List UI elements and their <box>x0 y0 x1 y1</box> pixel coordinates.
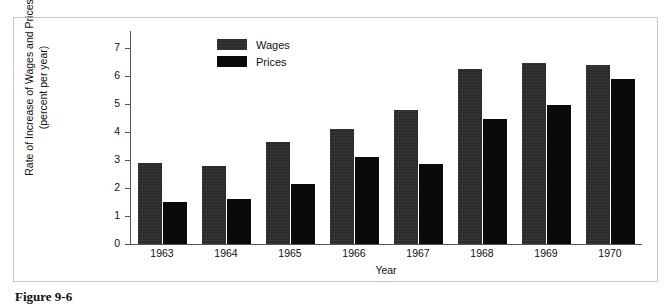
bar-prices-1969 <box>547 105 571 244</box>
legend-item: Prices <box>217 53 290 70</box>
legend-item: Wages <box>217 36 290 53</box>
bar-prices-1966 <box>355 157 379 244</box>
bar-group: 1968 <box>458 57 507 244</box>
x-axis-tick-label: 1964 <box>202 247 251 259</box>
y-axis-tick-label: 5 <box>114 97 120 110</box>
legend-swatch-prices <box>217 56 247 67</box>
figure-caption: Figure 9-6 <box>15 289 72 304</box>
y-axis-tick-label: 3 <box>114 153 120 166</box>
y-axis-tick-label: 1 <box>114 209 120 222</box>
x-axis-tick-label: 1968 <box>458 247 507 259</box>
bar-group: 1969 <box>522 57 571 244</box>
y-axis-title: Rate of Increase of Wages and Prices (pe… <box>23 0 50 188</box>
x-axis-tick-label: 1966 <box>330 247 379 259</box>
legend-label-prices: Prices <box>256 56 287 68</box>
bar-wages-1966 <box>330 129 354 244</box>
bar-group: 1970 <box>586 57 635 244</box>
y-axis-tick-label: 0 <box>114 237 120 250</box>
y-axis-tick-label: 2 <box>114 181 120 194</box>
x-axis-tick-label: 1965 <box>266 247 315 259</box>
figure-frame: 01234567 Rate of Increase of Wages and P… <box>13 17 658 282</box>
legend-swatch-wages <box>217 39 247 50</box>
figure-root: 01234567 Rate of Increase of Wages and P… <box>0 0 672 304</box>
x-axis-tick-label: 1967 <box>394 247 443 259</box>
bar-group: 1966 <box>330 57 379 244</box>
y-axis-tick-label: 6 <box>114 69 120 82</box>
legend-label-wages: Wages <box>256 39 290 51</box>
bar-wages-1964 <box>202 166 226 244</box>
chart-legend: WagesPrices <box>217 36 290 70</box>
y-axis-tick-label: 4 <box>114 125 120 138</box>
bar-wages-1969 <box>522 63 546 244</box>
x-axis-title: Year <box>130 264 642 276</box>
bar-wages-1963 <box>138 163 162 244</box>
bar-wages-1967 <box>394 110 418 244</box>
bar-prices-1963 <box>163 202 187 244</box>
bar-prices-1968 <box>483 119 507 244</box>
bar-prices-1964 <box>227 199 251 244</box>
y-axis-tick-label: 7 <box>114 41 120 54</box>
bar-group: 1965 <box>266 57 315 244</box>
bar-prices-1970 <box>611 79 635 244</box>
bar-group: 1963 <box>138 57 187 244</box>
bar-wages-1965 <box>266 142 290 244</box>
bar-group: 1967 <box>394 57 443 244</box>
bar-prices-1965 <box>291 184 315 244</box>
x-axis-tick-label: 1970 <box>586 247 635 259</box>
x-axis-tick-label: 1963 <box>138 247 187 259</box>
plot-area: 01234567 Rate of Increase of Wages and P… <box>14 18 659 283</box>
x-axis-tick-label: 1969 <box>522 247 571 259</box>
bar-wages-1970 <box>586 65 610 244</box>
bar-group: 1964 <box>202 57 251 244</box>
bars-layer: 19631964196519661967196819691970 <box>130 18 642 283</box>
bar-prices-1967 <box>419 164 443 244</box>
bar-wages-1968 <box>458 69 482 244</box>
